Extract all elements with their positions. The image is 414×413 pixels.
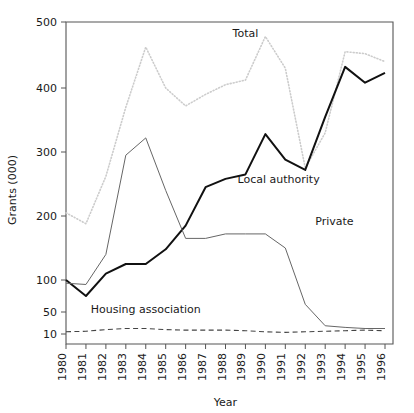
y-tick-label: 300 [36,146,57,159]
x-tick-label: 1985 [156,353,169,381]
series-label-private: Private [315,215,354,228]
x-tick-label: 1988 [216,353,229,381]
series-line-total [66,37,385,224]
series-line-local-authority [66,67,385,296]
y-tick-label: 50 [43,306,57,319]
x-tick-label: 1990 [255,353,268,381]
x-axis-ticks: 1980198119821983198419851986198719881989… [56,344,388,381]
x-axis-title: Year [213,396,238,409]
x-tick-label: 1983 [116,353,129,381]
y-axis-title: Grants (000) [6,155,19,225]
x-tick-label: 1994 [335,353,348,381]
y-tick-label: 500 [36,16,57,29]
series-label-housing-association: Housing association [91,303,201,316]
series-line-private [66,138,385,329]
series-labels: TotalLocal authorityPrivateHousing assoc… [91,27,354,317]
x-tick-label: 1995 [355,353,368,381]
x-tick-label: 1992 [295,353,308,381]
line-chart: 5004003002001005010 19801981198219831984… [0,0,414,413]
series-line-housing-association [66,329,385,333]
chart-canvas: 5004003002001005010 19801981198219831984… [0,0,414,413]
y-axis-ticks: 5004003002001005010 [36,16,66,341]
series-label-total: Total [232,27,259,40]
x-tick-label: 1984 [136,353,149,381]
y-tick-label: 100 [36,274,57,287]
x-tick-label: 1993 [315,353,328,381]
x-tick-label: 1981 [76,353,89,381]
x-tick-label: 1989 [235,353,248,381]
x-tick-label: 1980 [56,353,69,381]
x-tick-label: 1986 [176,353,189,381]
series-layer [66,37,385,333]
x-tick-label: 1982 [96,353,109,381]
y-tick-label: 400 [36,82,57,95]
x-tick-label: 1987 [196,353,209,381]
series-label-local-authority: Local authority [238,173,321,186]
y-tick-label: 200 [36,210,57,223]
x-tick-label: 1996 [375,353,388,381]
y-tick-label: 10 [43,328,57,341]
x-tick-label: 1991 [275,353,288,381]
